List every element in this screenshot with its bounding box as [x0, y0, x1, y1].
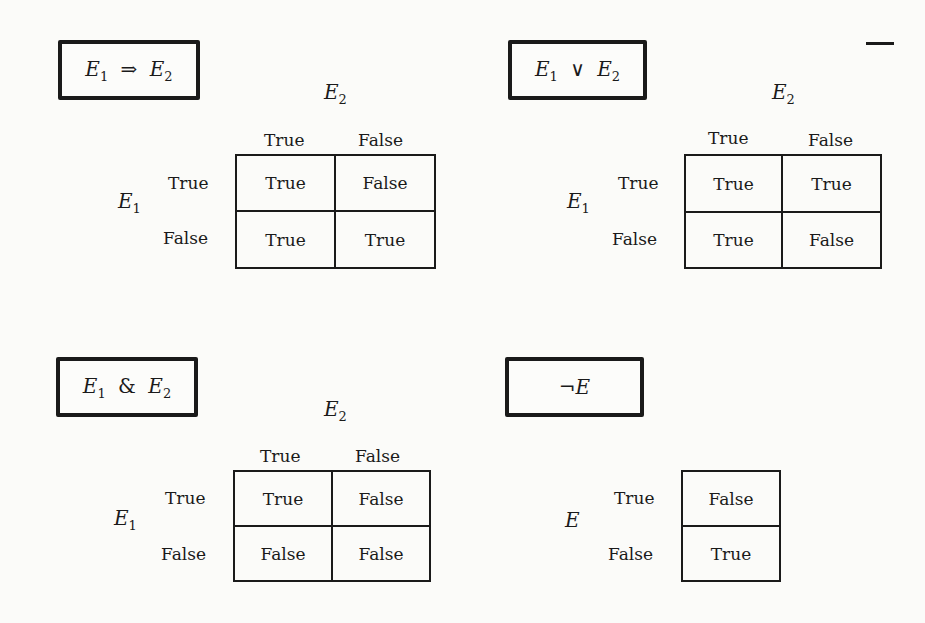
or-title-box: E1 ∨ E2	[508, 40, 647, 100]
table-cell: True	[683, 527, 779, 580]
not-row-var: E	[565, 508, 580, 532]
or-row-header-true: True	[618, 173, 658, 193]
implies-row-header-true: True	[168, 173, 208, 193]
and-col-var: E2	[324, 397, 347, 424]
implies-row-var: E1	[118, 189, 141, 216]
or-row-var: E1	[567, 189, 590, 216]
implies-title-box: E1 ⇒ E2	[58, 40, 200, 100]
table-cell: True	[237, 212, 336, 267]
implies-col-var: E2	[324, 80, 347, 107]
implies-col-header-true: True	[264, 130, 304, 150]
not-row-header-false: False	[608, 544, 653, 564]
implies-col-header-false: False	[358, 130, 403, 150]
implies-truth-table: True False True True	[235, 154, 436, 269]
or-title: E1 ∨ E2	[535, 57, 620, 84]
table-cell: True	[237, 156, 336, 212]
stray-mark	[866, 42, 894, 45]
not-row-header-true: True	[614, 488, 654, 508]
and-truth-table: True False False False	[233, 470, 431, 582]
table-cell: True	[783, 156, 880, 213]
table-cell: False	[333, 472, 429, 527]
and-title: E1 & E2	[83, 374, 171, 401]
and-row-var: E1	[114, 506, 137, 533]
table-cell: False	[235, 527, 333, 580]
table-cell: True	[336, 212, 434, 267]
table-cell: True	[686, 213, 783, 267]
and-col-header-true: True	[260, 446, 300, 466]
and-row-header-false: False	[161, 544, 206, 564]
table-cell: False	[783, 213, 880, 267]
or-row-header-false: False	[612, 229, 657, 249]
table-cell: False	[683, 472, 779, 527]
implies-title: E1 ⇒ E2	[85, 57, 172, 84]
or-col-header-false: False	[808, 130, 853, 150]
implies-row-header-false: False	[163, 228, 208, 248]
and-col-header-false: False	[355, 446, 400, 466]
table-cell: False	[336, 156, 434, 212]
and-row-header-true: True	[165, 488, 205, 508]
table-cell: False	[333, 527, 429, 580]
or-col-var: E2	[772, 80, 795, 107]
or-truth-table: True True True False	[684, 154, 882, 269]
or-col-header-true: True	[708, 128, 748, 148]
table-cell: True	[235, 472, 333, 527]
and-title-box: E1 & E2	[56, 357, 198, 417]
not-title: ¬E	[559, 375, 590, 399]
table-cell: True	[686, 156, 783, 213]
not-truth-table: False True	[681, 470, 781, 582]
not-title-box: ¬E	[505, 357, 644, 417]
